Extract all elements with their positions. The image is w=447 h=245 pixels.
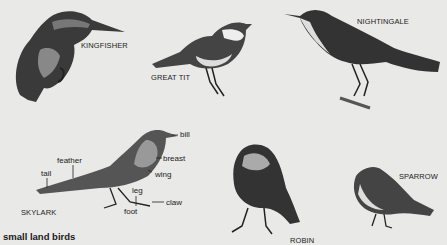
- bird-label-skylark: SKYLARK: [21, 208, 56, 217]
- part-label-breast: breast: [163, 154, 185, 163]
- part-label-bill: bill: [180, 130, 190, 139]
- bird-drawings: [0, 0, 447, 245]
- bird-label-kingfisher: KINGFISHER: [81, 41, 128, 50]
- part-label-claw: claw: [166, 198, 182, 207]
- bird-label-great-tit: GREAT TIT: [151, 73, 190, 82]
- great-tit-drawing: [152, 23, 252, 97]
- part-label-foot: foot: [124, 207, 137, 216]
- bird-label-robin: ROBIN: [290, 236, 314, 245]
- skylark-drawing: [36, 130, 178, 208]
- robin-drawing: [232, 145, 300, 234]
- plate-caption: small land birds: [3, 231, 75, 242]
- part-label-leg: leg: [132, 186, 143, 195]
- part-label-feather: feather: [57, 156, 82, 165]
- part-label-wing: wing: [155, 170, 171, 179]
- bird-label-nightingale: NIGHTINGALE: [357, 17, 409, 26]
- part-label-tail: tail: [41, 169, 51, 178]
- kingfisher-drawing: [16, 11, 125, 102]
- bird-illustration-plate: KINGFISHER GREAT TIT NIGHTINGALE SKYLARK…: [0, 0, 447, 245]
- bird-label-sparrow: SPARROW: [399, 172, 438, 181]
